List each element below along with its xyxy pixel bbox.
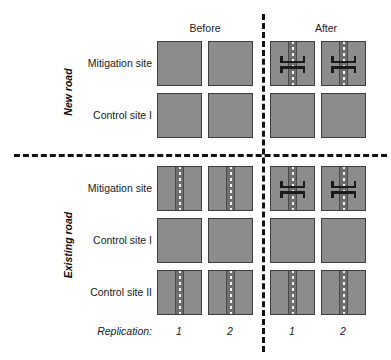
- crossing-deck: [280, 61, 305, 64]
- crossing-stub-left: [331, 66, 334, 73]
- crossing-deck: [331, 66, 356, 69]
- crossing-stub-right: [303, 181, 306, 188]
- crossing-stub-right: [303, 66, 306, 73]
- cell-existing-road-mitigation-before-1: [157, 166, 202, 211]
- wildlife-crossing-icon: [331, 53, 356, 63]
- cell-existing-road-control-ii-after-1: [270, 270, 315, 315]
- crossing-stub-left: [280, 181, 283, 188]
- crossing-stub-left: [280, 191, 283, 198]
- road-band: [339, 166, 348, 211]
- replication-number-after-2: 2: [340, 325, 346, 337]
- crossing-deck: [331, 186, 356, 189]
- cell-new-road-control-i-after-2: [321, 93, 366, 138]
- replication-label: Replication:: [97, 325, 152, 337]
- row-label-existing-road-control-site-i: Control site I: [93, 234, 152, 246]
- cell-new-road-control-i-before-2: [208, 93, 253, 138]
- road-band: [175, 166, 184, 211]
- crossing-deck: [280, 66, 305, 69]
- road-band: [339, 41, 348, 86]
- road-band: [226, 270, 235, 315]
- cell-new-road-mitigation-after-1: [270, 41, 315, 86]
- replication-number-after-1: 1: [289, 325, 295, 337]
- row-label-existing-road-mitigation-site: Mitigation site: [88, 182, 152, 194]
- cell-existing-road-control-i-after-2: [321, 218, 366, 263]
- road-band: [288, 41, 297, 86]
- cell-existing-road-mitigation-before-2: [208, 166, 253, 211]
- crossing-stub-right: [303, 56, 306, 63]
- crossing-stub-left: [280, 66, 283, 73]
- divider-vertical-before-after: [262, 14, 265, 352]
- crossing-deck: [331, 61, 356, 64]
- column-header-after: After: [315, 22, 337, 34]
- cell-existing-road-control-i-after-1: [270, 218, 315, 263]
- wildlife-crossing-icon: [331, 178, 356, 188]
- crossing-stub-right: [354, 66, 357, 73]
- cell-new-road-mitigation-after-2: [321, 41, 366, 86]
- crossing-stub-left: [331, 191, 334, 198]
- road-band: [288, 270, 297, 315]
- crossing-stub-right: [354, 181, 357, 188]
- wildlife-crossing-icon: [280, 66, 305, 76]
- crossing-stub-right: [354, 56, 357, 63]
- replication-number-before-2: 2: [227, 325, 233, 337]
- crossing-deck: [280, 191, 305, 194]
- column-header-before: Before: [190, 22, 221, 34]
- section-label-new-road: New road: [62, 68, 74, 115]
- replication-number-before-1: 1: [176, 325, 182, 337]
- crossing-deck: [331, 191, 356, 194]
- wildlife-crossing-icon: [280, 53, 305, 63]
- row-label-new-road-control-site-i: Control site I: [93, 109, 152, 121]
- wildlife-crossing-icon: [280, 178, 305, 188]
- section-label-existing-road: Existing road: [62, 212, 74, 279]
- crossing-stub-right: [303, 191, 306, 198]
- figure-canvas: Before After New road Existing road Miti…: [0, 0, 391, 360]
- wildlife-crossing-icon: [280, 191, 305, 201]
- road-band: [175, 270, 184, 315]
- cell-new-road-control-i-before-1: [157, 93, 202, 138]
- cell-existing-road-mitigation-after-2: [321, 166, 366, 211]
- cell-new-road-control-i-after-1: [270, 93, 315, 138]
- divider-horizontal-road-type: [14, 154, 387, 157]
- crossing-stub-left: [331, 181, 334, 188]
- crossing-stub-left: [331, 56, 334, 63]
- cell-existing-road-control-ii-before-1: [157, 270, 202, 315]
- cell-existing-road-control-ii-after-2: [321, 270, 366, 315]
- cell-existing-road-control-i-before-2: [208, 218, 253, 263]
- cell-existing-road-control-i-before-1: [157, 218, 202, 263]
- road-band: [288, 166, 297, 211]
- cell-existing-road-control-ii-before-2: [208, 270, 253, 315]
- cell-new-road-mitigation-before-1: [157, 41, 202, 86]
- wildlife-crossing-icon: [331, 66, 356, 76]
- crossing-stub-left: [280, 56, 283, 63]
- crossing-deck: [280, 186, 305, 189]
- crossing-stub-right: [354, 191, 357, 198]
- road-band: [339, 270, 348, 315]
- cell-existing-road-mitigation-after-1: [270, 166, 315, 211]
- wildlife-crossing-icon: [331, 191, 356, 201]
- cell-new-road-mitigation-before-2: [208, 41, 253, 86]
- row-label-existing-road-control-site-ii: Control site II: [90, 286, 152, 298]
- road-band: [226, 166, 235, 211]
- row-label-new-road-mitigation-site: Mitigation site: [88, 57, 152, 69]
